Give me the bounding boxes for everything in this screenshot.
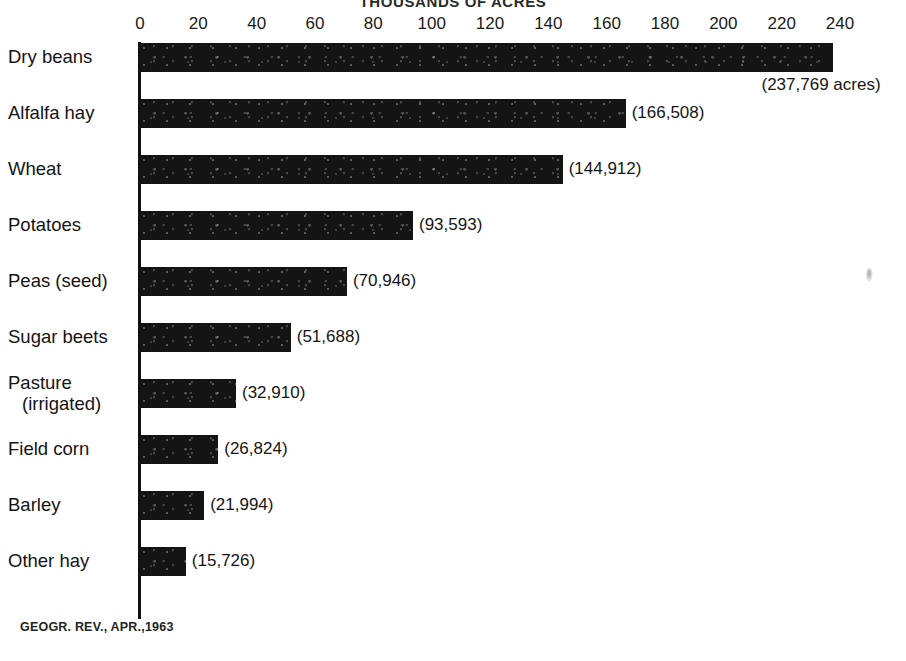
bar-value-label: (237,769 acres) xyxy=(761,75,880,95)
x-tick-40: 40 xyxy=(247,14,266,34)
bar xyxy=(140,547,186,576)
bar-value-label: (15,726) xyxy=(192,551,255,571)
bar-row: Alfalfa hay(166,508) xyxy=(0,98,906,154)
source-credit: GEOGR. REV., APR.,1963 xyxy=(20,620,174,634)
bar xyxy=(140,155,563,184)
category-label: Alfalfa hay xyxy=(8,102,158,123)
x-tick-0: 0 xyxy=(135,14,144,34)
bar xyxy=(140,491,204,520)
bar xyxy=(140,99,626,128)
bar-row: Wheat(144,912) xyxy=(0,154,906,210)
category-label: Wheat xyxy=(8,158,158,179)
x-tick-160: 160 xyxy=(592,14,620,34)
bar-row: Other hay(15,726) xyxy=(0,546,906,602)
scan-artifact-smudge xyxy=(866,268,873,282)
x-tick-220: 220 xyxy=(767,14,795,34)
bar-row: Peas (seed)(70,946) xyxy=(0,266,906,322)
bar xyxy=(140,435,218,464)
bar-value-label: (144,912) xyxy=(569,159,642,179)
category-label: Peas (seed) xyxy=(8,270,158,291)
category-label: Other hay xyxy=(8,550,158,571)
chart-title: THOUSANDS OF ACRES xyxy=(0,0,906,10)
x-tick-120: 120 xyxy=(476,14,504,34)
category-label: Potatoes xyxy=(8,214,158,235)
x-tick-60: 60 xyxy=(306,14,325,34)
category-label: Sugar beets xyxy=(8,326,158,347)
bar-value-label: (21,994) xyxy=(210,495,273,515)
category-label: Barley xyxy=(8,494,158,515)
x-tick-240: 240 xyxy=(826,14,854,34)
bar-row: Potatoes(93,593) xyxy=(0,210,906,266)
bar xyxy=(140,323,291,352)
bar-row: Barley(21,994) xyxy=(0,490,906,546)
bar xyxy=(140,267,347,296)
bar-row: Dry beans(237,769 acres) xyxy=(0,42,906,98)
bar xyxy=(140,379,236,408)
category-label: Dry beans xyxy=(8,46,158,67)
bar-value-label: (70,946) xyxy=(353,271,416,291)
x-tick-100: 100 xyxy=(417,14,445,34)
bar-value-label: (51,688) xyxy=(297,327,360,347)
bar-chart: THOUSANDS OF ACRES 020406080100120140160… xyxy=(0,0,906,661)
x-tick-20: 20 xyxy=(189,14,208,34)
bar-value-label: (26,824) xyxy=(224,439,287,459)
bar-row: Pasture(irrigated)(32,910) xyxy=(0,378,906,434)
x-axis-tick-labels: 020406080100120140160180200220240 xyxy=(0,14,906,38)
x-tick-200: 200 xyxy=(709,14,737,34)
bar xyxy=(140,211,413,240)
bar-value-label: (32,910) xyxy=(242,383,305,403)
category-label: Pasture(irrigated) xyxy=(8,372,158,415)
bar-row: Field corn(26,824) xyxy=(0,434,906,490)
bar xyxy=(140,43,833,72)
bar-row: Sugar beets(51,688) xyxy=(0,322,906,378)
bar-value-label: (166,508) xyxy=(632,103,705,123)
x-tick-80: 80 xyxy=(364,14,383,34)
x-tick-140: 140 xyxy=(534,14,562,34)
plot-area: Dry beans(237,769 acres)Alfalfa hay(166,… xyxy=(0,42,906,622)
bar-value-label: (93,593) xyxy=(419,215,482,235)
x-tick-180: 180 xyxy=(651,14,679,34)
category-label: Field corn xyxy=(8,438,158,459)
